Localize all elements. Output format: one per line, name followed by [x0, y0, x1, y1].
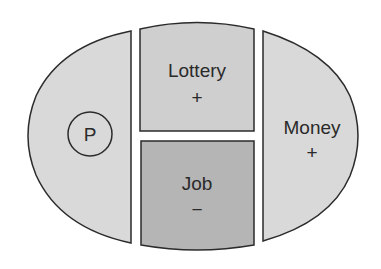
diagram: P Lottery + Job − Money +: [0, 0, 381, 269]
lottery-sign: +: [191, 87, 202, 108]
lottery-region: Lottery +: [140, 23, 254, 132]
lottery-label: Lottery: [168, 60, 227, 81]
job-label: Job: [182, 173, 213, 194]
left-region: P: [28, 31, 131, 243]
job-region: Job −: [141, 141, 254, 250]
money-sign: +: [306, 142, 317, 163]
job-sign: −: [191, 199, 202, 220]
p-label: P: [84, 124, 97, 145]
money-label: Money: [283, 117, 341, 138]
right-region: Money +: [263, 31, 358, 241]
